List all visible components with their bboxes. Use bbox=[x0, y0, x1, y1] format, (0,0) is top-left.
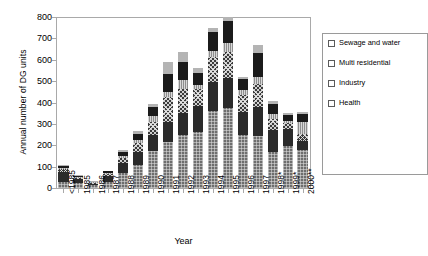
bar-segment bbox=[268, 119, 278, 131]
x-tick-label: 1992 bbox=[186, 175, 196, 194]
bar-segment bbox=[223, 21, 233, 42]
solid-black-swatch bbox=[328, 60, 335, 67]
x-tick-label: 1985 bbox=[82, 175, 92, 194]
bar-segment bbox=[148, 135, 158, 151]
y-tick-mark bbox=[52, 38, 56, 39]
bar-segment bbox=[253, 45, 263, 54]
bar-segment bbox=[268, 130, 278, 151]
x-tick-mark bbox=[243, 189, 244, 193]
y-tick-mark bbox=[52, 124, 56, 125]
x-tick-label: 1996 bbox=[246, 175, 256, 194]
checker-dark-swatch bbox=[328, 100, 335, 107]
x-tick-label: 1988 bbox=[126, 175, 136, 194]
x-tick-mark bbox=[63, 189, 64, 193]
y-tick-label: 200 bbox=[37, 141, 52, 150]
x-tick-mark bbox=[303, 189, 304, 193]
bar-segment bbox=[208, 82, 218, 111]
x-tick-mark bbox=[168, 189, 169, 193]
bar-stack bbox=[193, 68, 203, 188]
vertical-stripe-swatch bbox=[328, 80, 335, 87]
x-tick-mark bbox=[288, 189, 289, 193]
bar-segment bbox=[178, 52, 188, 62]
legend-label: Health bbox=[339, 99, 360, 108]
bar-segment bbox=[253, 53, 263, 77]
x-tick-mark bbox=[108, 189, 109, 193]
bar-segment bbox=[208, 57, 218, 83]
bar-segment bbox=[133, 152, 143, 165]
bar-segment bbox=[253, 77, 263, 84]
bar-segment bbox=[133, 143, 143, 152]
bar-segment bbox=[297, 141, 307, 150]
bar-segment bbox=[148, 122, 158, 135]
bar-segment bbox=[297, 134, 307, 141]
bar-stack bbox=[253, 45, 263, 188]
bar-segment bbox=[223, 43, 233, 53]
plot-area: 0100200300400500600700800 bbox=[56, 17, 310, 188]
y-tick-mark bbox=[52, 81, 56, 82]
x-tick-label: 1999* bbox=[291, 172, 301, 194]
bar-segment bbox=[163, 74, 173, 92]
bar-segment bbox=[238, 112, 248, 134]
bar-stack bbox=[178, 52, 188, 188]
x-tick-mark bbox=[228, 189, 229, 193]
y-tick-mark bbox=[52, 145, 56, 146]
bar-segment bbox=[238, 79, 248, 90]
legend-label: Multi residential bbox=[339, 59, 390, 68]
light-gray-swatch bbox=[328, 40, 335, 47]
bar-segment bbox=[178, 80, 188, 89]
x-tick-mark bbox=[273, 189, 274, 193]
x-tick-mark bbox=[78, 189, 79, 193]
bar-segment bbox=[193, 73, 203, 86]
y-tick-mark bbox=[52, 188, 56, 189]
x-tick-label: 1987 bbox=[111, 175, 121, 194]
legend-item[interactable]: Health bbox=[328, 99, 360, 108]
x-tick-label: 1993 bbox=[201, 175, 211, 194]
x-tick-mark bbox=[93, 189, 94, 193]
chart-figure: Annual number of DG units 01002003004005… bbox=[0, 0, 428, 256]
legend-item[interactable]: Industry bbox=[328, 79, 365, 88]
bar-segment bbox=[118, 163, 128, 173]
bar-segment bbox=[178, 113, 188, 134]
y-tick-mark bbox=[52, 103, 56, 104]
y-tick-label: 300 bbox=[37, 119, 52, 128]
bar-segment bbox=[253, 84, 263, 106]
bar-segment bbox=[163, 97, 173, 122]
x-tick-label: 1991 bbox=[171, 175, 181, 194]
x-tick-mark bbox=[138, 189, 139, 193]
bar-segment bbox=[238, 95, 248, 112]
legend-item[interactable]: Multi residential bbox=[328, 59, 390, 68]
bar-segment bbox=[163, 122, 173, 142]
bar-segment bbox=[208, 32, 218, 51]
x-tick-mark bbox=[213, 189, 214, 193]
bar-stack bbox=[208, 28, 218, 188]
y-tick-label: 100 bbox=[37, 162, 52, 171]
y-tick-label: 400 bbox=[37, 98, 52, 107]
plot-frame-right bbox=[310, 17, 311, 189]
legend-item[interactable]: Sewage and water bbox=[328, 39, 400, 48]
legend-label: Industry bbox=[339, 79, 365, 88]
x-tick-label: 1998* bbox=[276, 172, 286, 194]
x-tick-mark bbox=[258, 189, 259, 193]
bar-segment bbox=[253, 107, 263, 136]
x-tick-label: 1994 bbox=[216, 175, 226, 194]
x-tick-mark bbox=[153, 189, 154, 193]
y-tick-label: 600 bbox=[37, 55, 52, 64]
x-axis-title: Year bbox=[56, 236, 311, 246]
bar-segment bbox=[297, 122, 307, 134]
y-tick-mark bbox=[52, 60, 56, 61]
bar-segment bbox=[223, 78, 233, 108]
bar-segment bbox=[283, 129, 293, 146]
bar-segment bbox=[148, 107, 158, 117]
bar-segment bbox=[223, 52, 233, 78]
bar-segment bbox=[163, 62, 173, 74]
y-tick-label: 700 bbox=[37, 34, 52, 43]
y-tick-label: 500 bbox=[37, 77, 52, 86]
x-tick-label: 1990 bbox=[156, 175, 166, 194]
x-tick-mark bbox=[198, 189, 199, 193]
bar-segment bbox=[268, 104, 278, 115]
x-tick-label: 1995 bbox=[231, 175, 241, 194]
x-tick-mark bbox=[183, 189, 184, 193]
x-tick-label: 1997 bbox=[261, 175, 271, 194]
y-tick-mark bbox=[52, 17, 56, 18]
bar-segment bbox=[297, 114, 307, 121]
